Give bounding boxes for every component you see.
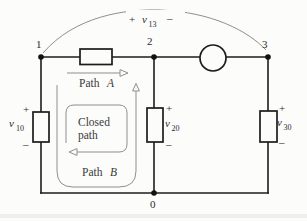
v30-minus-sign: – — [278, 136, 285, 148]
v10-minus-sign: – — [22, 138, 29, 150]
v20-plus-sign: + — [166, 102, 172, 114]
path-b-word: Path — [82, 166, 103, 178]
v13-plus-sign: + — [129, 13, 135, 25]
v13-symbol: v — [142, 13, 147, 25]
source-circle — [200, 45, 226, 71]
v20-subscript: 20 — [172, 124, 180, 133]
node-0-label: 0 — [150, 198, 156, 210]
path-b-letter: B — [110, 166, 117, 178]
resistor-v20 — [147, 108, 163, 142]
path-a-word: Path — [79, 77, 100, 89]
v10-plus-sign: + — [23, 103, 29, 115]
v20-label: + v 20 – — [165, 102, 180, 150]
v20-symbol: v — [165, 117, 170, 129]
resistor-v10 — [33, 112, 49, 142]
path-a-arrowhead-icon — [120, 70, 128, 77]
path-b-arrowhead-icon — [133, 84, 140, 92]
page-edge-shadow — [0, 214, 307, 218]
v10-symbol: v — [9, 117, 14, 129]
path-a-arrow — [67, 70, 128, 77]
path-b-label: Path B — [82, 166, 117, 178]
v30-label: + v 30 – — [277, 102, 292, 148]
node-3-label: 3 — [262, 38, 268, 50]
v10-subscript: 10 — [16, 124, 24, 133]
node-0-dot — [151, 190, 157, 196]
v10-label: + v 10 – — [9, 103, 29, 150]
closed-path-arrowhead-icon — [69, 149, 77, 156]
closed-path-line1: Closed — [78, 116, 110, 128]
node-1-label: 1 — [36, 38, 42, 50]
closed-path-line2: path — [78, 129, 98, 142]
path-a-letter: A — [106, 77, 115, 89]
closed-path-label: Closed path — [78, 116, 110, 142]
resistor-node1-node2 — [80, 49, 112, 65]
v13-subscript: 13 — [149, 20, 157, 29]
circuit-figure: 1 2 3 0 + v 13 – + v 10 – + v 20 – + v 3… — [0, 0, 307, 221]
node-3-dot — [265, 54, 271, 60]
v30-plus-sign: + — [279, 102, 285, 114]
node-2-label: 2 — [147, 35, 153, 47]
v30-symbol: v — [277, 116, 282, 128]
resistor-v30 — [260, 111, 277, 142]
v13-minus-sign: – — [166, 12, 173, 24]
path-a-label: Path A — [79, 77, 115, 89]
v30-subscript: 30 — [284, 123, 292, 132]
node-1-dot — [38, 54, 44, 60]
node-2-dot — [151, 54, 157, 60]
circuit-svg: 1 2 3 0 + v 13 – + v 10 – + v 20 – + v 3… — [0, 0, 307, 221]
v20-minus-sign: – — [165, 138, 172, 150]
